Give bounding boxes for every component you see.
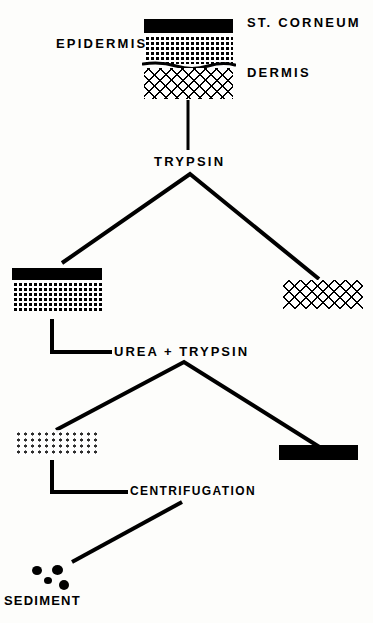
epidermis-dotted-band-2 <box>12 281 102 311</box>
split-trypsin <box>62 174 319 279</box>
sediment-dot <box>44 577 52 584</box>
stratum-corneum-bar-2 <box>12 268 102 280</box>
line-centrifugation-to-sediment <box>72 502 182 562</box>
elbow-cells-to-centrifugation <box>52 460 128 492</box>
sediment-dot <box>52 565 63 575</box>
label-urea-trypsin: UREA + TRYPSIN <box>114 345 249 358</box>
sediment-dot <box>59 580 69 590</box>
elbow-epidermis-to-urea <box>52 319 112 352</box>
sediment-dot <box>32 566 42 575</box>
flow-diagram-canvas: ST. CORNEUM EPIDERMIS DERMIS TRYPSIN URE… <box>0 0 373 623</box>
label-centrifugation: CENTRIFUGATION <box>130 485 256 497</box>
connector-lines <box>0 0 373 623</box>
specimen-corneum-sheet <box>279 445 358 460</box>
label-trypsin: TRYPSIN <box>154 155 225 168</box>
label-sediment: SEDIMENT <box>4 594 81 607</box>
specimen-dissociated-cells <box>14 430 99 456</box>
specimen-separated-dermis <box>283 280 363 309</box>
